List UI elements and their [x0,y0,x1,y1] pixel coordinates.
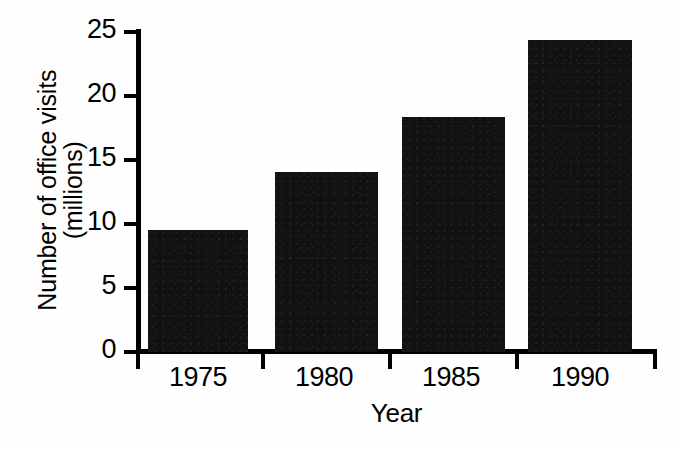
y-axis-tick-label-20-wrap: 20 [56,80,116,107]
y-axis-tick-25 [124,30,138,34]
y-axis-tick-label-10-wrap: 10 [56,208,116,235]
x-axis-tick-right [653,352,657,369]
y-axis-tick-label-15: 15 [56,144,116,171]
x-axis-tick-label-1975: 1975 [138,361,258,393]
y-axis-tick-label-5: 5 [56,272,116,299]
y-axis-tick-label-5-wrap: 5 [56,272,116,299]
y-axis-tick-label-25-wrap: 25 [56,16,116,43]
bar-1980 [275,172,378,352]
x-axis-tick-label-1980: 1980 [264,361,384,393]
y-axis-line [136,29,141,354]
y-axis-tick-label-0: 0 [56,336,116,363]
bar-1975 [148,230,248,352]
bar-1990 [528,40,632,352]
bar-chart-figure: Number of office visits (millions) 0 5 1… [0,0,675,449]
y-axis-title: Number of office visits (millions) [0,0,120,380]
y-axis-tick-label-25: 25 [56,16,116,43]
y-axis-tick-20 [124,94,138,98]
bar-1985 [402,117,505,352]
y-axis-tick-5 [124,286,138,290]
x-axis-tick-label-1990: 1990 [520,361,640,393]
y-axis-tick-label-15-wrap: 15 [56,144,116,171]
x-axis-tick-3 [515,352,519,369]
y-axis-tick-label-20: 20 [56,80,116,107]
y-axis-tick-label-0-wrap: 0 [56,336,116,363]
y-axis-tick-label-10: 10 [56,208,116,235]
x-axis-title: Year [136,398,657,429]
x-axis-tick-label-1985: 1985 [391,361,511,393]
y-axis-tick-10 [124,222,138,226]
y-axis-tick-15 [124,158,138,162]
